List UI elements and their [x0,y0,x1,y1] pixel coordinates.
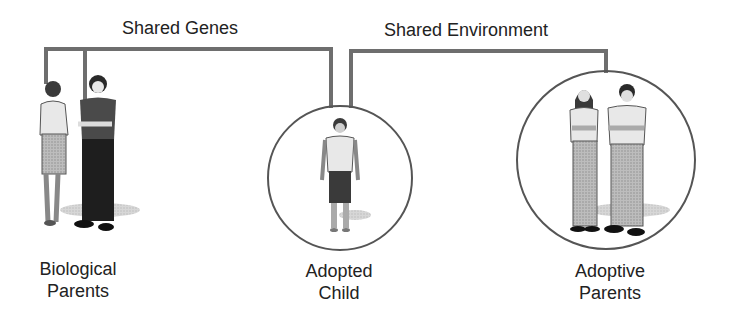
adopted-child-label: Adopted Child [284,260,394,304]
adoptive-parents-figure [570,84,670,236]
shared-genes-label: Shared Genes [122,18,238,39]
shared-environment-label: Shared Environment [384,20,548,41]
adopted-child-line1: Adopted [284,260,394,282]
adopted-child-figure [322,118,371,232]
biological-parents-label: Biological Parents [18,258,138,302]
biological-parents-figure [40,75,140,231]
adoptive-parents-label: Adoptive Parents [550,260,670,304]
adoptive-parents-line2: Parents [550,282,670,304]
adopted-child-line2: Child [284,282,394,304]
adoptive-parents-line1: Adoptive [550,260,670,282]
adoptive-parents-circle [517,71,695,249]
biological-parents-line1: Biological [18,258,138,280]
biological-parents-line2: Parents [18,280,138,302]
